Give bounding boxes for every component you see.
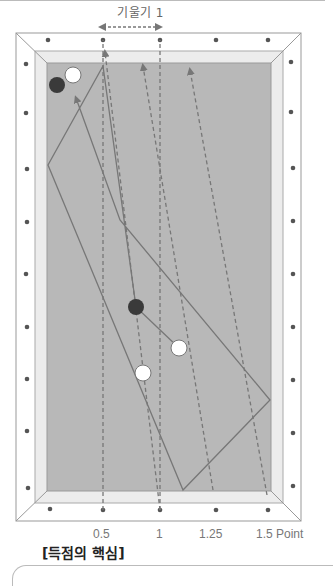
dark-ball-corner (49, 77, 65, 93)
white-ball-left (135, 365, 151, 381)
tick-0-5: 0.5 (93, 527, 110, 541)
white-ball-corner (65, 67, 81, 83)
dark-ball-center (128, 299, 144, 315)
bottom-border (12, 565, 333, 586)
tick-1-25: 1.25 (199, 527, 222, 541)
felt (47, 63, 271, 491)
caption: [득점의 핵심] (42, 542, 125, 562)
white-ball-right (171, 340, 187, 356)
tick-1-5-point: 1.5 Point (256, 527, 303, 541)
tick-1: 1 (156, 527, 163, 541)
